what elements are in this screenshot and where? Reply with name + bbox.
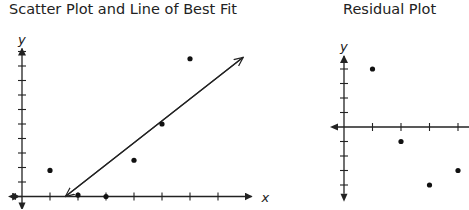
data-point (75, 192, 80, 197)
residual-point (370, 66, 375, 71)
y-axis-label: y (339, 39, 348, 54)
x-axis-left-arrow-icon (330, 124, 338, 131)
data-point (159, 121, 164, 126)
scatter-plot: xy (8, 32, 270, 209)
data-point (131, 158, 136, 163)
charts-canvas: xy y (0, 0, 469, 209)
residual-point (427, 182, 432, 187)
residual-point (455, 168, 460, 173)
y-axis-down-arrow-icon (341, 194, 348, 202)
x-axis-label: x (261, 190, 270, 205)
data-point (187, 56, 192, 61)
residual-plot: y (330, 39, 469, 202)
data-point (103, 194, 108, 199)
residual-point (398, 139, 403, 144)
y-axis-down-arrow-icon (19, 203, 26, 210)
data-point (47, 168, 52, 173)
y-axis-label: y (17, 32, 26, 47)
